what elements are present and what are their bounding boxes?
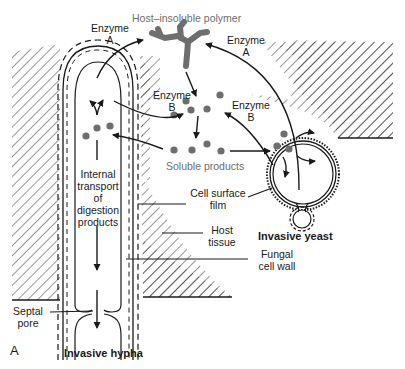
diagram-graphics: [0, 0, 405, 369]
diagram-fungal-invasion: Host–insoluble polymer Enzyme A Enzyme A…: [0, 0, 405, 369]
label-enzyme-a-hypha: Enzyme A: [88, 22, 132, 46]
label-soluble-products: Soluble products: [166, 160, 244, 172]
label-internal-transport: Internal transport of digestion products: [76, 168, 120, 228]
host-tissue-left: [12, 44, 60, 300]
label-cell-surface-film: Cell surface film: [184, 187, 252, 211]
label-invasive-hypha: Invasive hypha: [64, 347, 143, 359]
label-host-insoluble-polymer: Host–insoluble polymer: [132, 12, 241, 24]
label-host-tissue: Host tissue: [204, 224, 240, 248]
label-enzyme-b-hypha: Enzyme B: [150, 89, 194, 113]
label-enzyme-a-yeast: Enzyme A: [224, 34, 268, 58]
panel-letter: A: [10, 345, 19, 357]
label-enzyme-b-yeast: Enzyme B: [229, 99, 273, 123]
label-invasive-yeast: Invasive yeast: [258, 230, 333, 242]
label-fungal-cell-wall: Fungal cell wall: [252, 248, 302, 272]
label-septal-pore: Septal pore: [8, 305, 48, 329]
